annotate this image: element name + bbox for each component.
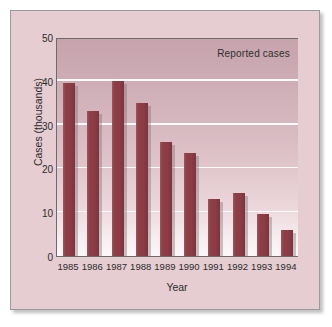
bar [233,193,245,257]
bar [63,83,75,256]
chart-figure: Cases (thousands) 01020304050 Reported c… [10,10,320,310]
y-tick-label: 50 [31,33,53,44]
bar [281,230,293,256]
y-tick-label: 20 [31,164,53,175]
bar [257,214,269,256]
x-tick-label: 1992 [227,261,248,272]
bar [208,199,220,256]
series-annotation: Reported cases [217,48,290,59]
gridline [57,79,298,81]
y-axis-tick-labels: 01020304050 [25,38,53,257]
bar [184,153,196,256]
x-tick-label: 1993 [251,261,272,272]
x-tick-label: 1985 [58,261,79,272]
y-tick-label: 40 [31,76,53,87]
bar [160,142,172,256]
bar [112,81,124,256]
x-tick-label: 1989 [154,261,175,272]
x-tick-label: 1986 [82,261,103,272]
y-tick-label: 0 [31,252,53,263]
bar [87,111,99,256]
bar [136,103,148,256]
x-tick-label: 1994 [275,261,296,272]
x-axis-title: Year [56,281,298,293]
plot-area: Reported cases [56,38,298,257]
x-tick-label: 1988 [130,261,151,272]
x-axis-tick-labels: 1985198619871988198919901991199219931994 [56,261,298,275]
y-tick-label: 30 [31,120,53,131]
x-tick-label: 1987 [106,261,127,272]
x-tick-label: 1991 [203,261,224,272]
y-tick-label: 10 [31,208,53,219]
x-tick-label: 1990 [179,261,200,272]
